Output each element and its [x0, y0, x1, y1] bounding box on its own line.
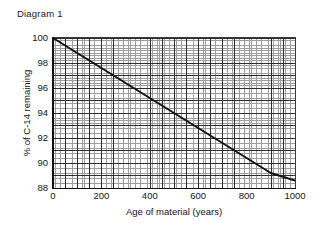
- y-tick-label-98: 98: [37, 58, 48, 68]
- y-axis-title: % of C-14 remaining: [22, 38, 32, 188]
- x-tick-label-0: 0: [50, 191, 55, 201]
- x-tick-label-400: 400: [142, 191, 158, 201]
- y-tick-label-100: 100: [32, 33, 48, 43]
- x-tick-label-600: 600: [190, 191, 206, 201]
- y-tick-label-94: 94: [37, 108, 48, 118]
- y-tick-label-92: 92: [37, 133, 48, 143]
- diagram-figure: Diagram 1 889092949698100 02004006008001…: [0, 0, 327, 232]
- y-tick-label-88: 88: [37, 183, 48, 193]
- x-tick-label-200: 200: [93, 191, 109, 201]
- page-title: Diagram 1: [17, 8, 63, 19]
- data-line: [53, 38, 295, 188]
- y-tick-label-96: 96: [37, 83, 48, 93]
- x-axis-title: Age of material (years): [53, 206, 295, 217]
- x-tick-label-1000: 1000: [284, 191, 305, 201]
- y-tick-label-90: 90: [37, 158, 48, 168]
- x-tick-label-800: 800: [239, 191, 255, 201]
